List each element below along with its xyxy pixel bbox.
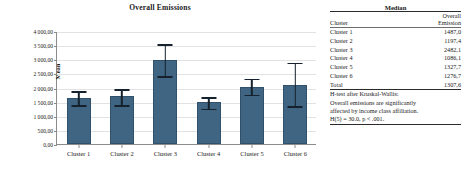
x-axis-tick-mark (165, 144, 166, 148)
cell-cluster: Cluster 3 (330, 46, 395, 55)
y-axis-tick-label: 1 000,00 (33, 114, 53, 120)
bar-chart-panel: Overall Emissions Mean 0,00500,001 000,0… (0, 0, 320, 176)
figure-container: Overall Emissions Mean 0,00500,001 000,0… (0, 0, 465, 176)
error-bar-cap-bottom (71, 105, 86, 106)
cell-overall-emission: 1307,6 (395, 81, 461, 90)
table-body: Cluster 11487,0Cluster 21197,4Cluster 32… (330, 28, 461, 90)
y-axis-tick-label: 500,00 (38, 128, 53, 134)
error-bar-cap-top (201, 97, 216, 98)
table-row: Cluster 61276,7 (330, 72, 461, 81)
header-overall-emission: Overall Emission (395, 12, 461, 28)
error-bar-cap-bottom (288, 106, 303, 107)
error-bar-cap-bottom (114, 105, 129, 106)
y-axis-tick-label: 4 000,00 (33, 29, 53, 35)
x-axis-tick-mark (121, 144, 122, 148)
table-row: Total1307,6 (330, 81, 461, 90)
table-note-row: H-test after Kruskal-Wallis:Overall emis… (330, 90, 461, 124)
y-axis-tick-mark (54, 145, 57, 146)
table-bottom-rule-row (330, 124, 461, 125)
y-axis-tick-label: 3 000,00 (33, 57, 53, 63)
cell-cluster: Total (330, 81, 395, 90)
error-bar-stem (251, 79, 252, 97)
error-bar-stem (165, 44, 166, 78)
error-bar-stem (121, 89, 122, 106)
x-axis-tick-label: Cluster 4 (197, 150, 220, 157)
error-bar-cap-bottom (244, 95, 259, 96)
cell-cluster: Cluster 6 (330, 72, 395, 81)
table-note-line: H(5) = 30.0, p < .001. (330, 115, 461, 123)
cell-overall-emission: 1086,1 (395, 55, 461, 64)
error-bar-cap-top (71, 91, 86, 92)
error-bar (288, 63, 303, 108)
cell-overall-emission: 1327,7 (395, 63, 461, 72)
table-header-row: Cluster Overall Emission (330, 12, 461, 28)
table-row: Cluster 41086,1 (330, 55, 461, 64)
cell-overall-emission: 2482,1 (395, 46, 461, 55)
y-axis-tick-label: 2 500,00 (33, 71, 53, 77)
x-axis-tick-mark (295, 144, 296, 148)
error-bar-cap-top (244, 79, 259, 80)
y-axis-tick-label: 1 500,00 (33, 100, 53, 106)
table-note-line: H-test after Kruskal-Wallis: (330, 90, 461, 98)
error-bar (114, 89, 129, 106)
bar-group: Cluster 2 (100, 32, 143, 144)
cell-cluster: Cluster 5 (330, 63, 395, 72)
table-row: Cluster 21197,4 (330, 37, 461, 46)
x-axis-tick-label: Cluster 2 (110, 150, 133, 157)
x-axis-tick-mark (78, 144, 79, 148)
error-bar-cap-bottom (158, 76, 173, 77)
error-bar-stem (295, 63, 296, 108)
bar-group: Cluster 6 (274, 32, 317, 144)
x-axis-tick-label: Cluster 5 (240, 150, 263, 157)
x-axis-tick-mark (208, 144, 209, 148)
table-row: Cluster 51327,7 (330, 63, 461, 72)
error-bar-cap-top (114, 89, 129, 90)
table-caption-row: Median (330, 4, 461, 12)
median-table: Median Cluster Overall Emission Cluster … (330, 4, 461, 125)
table-row: Cluster 11487,0 (330, 28, 461, 37)
error-bar-cap-bottom (201, 109, 216, 110)
x-axis-tick-label: Cluster 1 (67, 150, 90, 157)
table-note-line: Overall emissions are significantly (330, 99, 461, 107)
cell-cluster: Cluster 1 (330, 28, 395, 37)
table-row: Cluster 32482,1 (330, 46, 461, 55)
y-axis-tick-label: 3 500,00 (33, 43, 53, 49)
error-bar-cap-top (288, 63, 303, 64)
error-bar (244, 79, 259, 97)
error-bar (71, 91, 86, 106)
cell-overall-emission: 1487,0 (395, 28, 461, 37)
cell-cluster: Cluster 2 (330, 37, 395, 46)
cell-overall-emission: 1276,7 (395, 72, 461, 81)
bar-group: Cluster 1 (57, 32, 100, 144)
bar-group: Cluster 3 (144, 32, 187, 144)
table-note: H-test after Kruskal-Wallis:Overall emis… (330, 90, 461, 124)
error-bar (158, 44, 173, 78)
x-axis-tick-label: Cluster 3 (154, 150, 177, 157)
header-cluster: Cluster (330, 12, 395, 28)
y-axis-tick-label: 0,00 (43, 142, 53, 148)
bar-series: Cluster 1Cluster 2Cluster 3Cluster 4Clus… (57, 32, 316, 144)
plot-area: Mean 0,00500,001 000,001 500,002 000,002… (56, 32, 316, 145)
table-note-line: affected by income class affiliation. (330, 107, 461, 115)
error-bar (201, 97, 216, 110)
table-bottom-rule (330, 124, 461, 125)
cell-cluster: Cluster 4 (330, 55, 395, 64)
header-overall-line2: Emission (395, 20, 461, 27)
median-table-panel: Median Cluster Overall Emission Cluster … (330, 4, 461, 125)
cell-overall-emission: 1197,4 (395, 37, 461, 46)
x-axis-tick-label: Cluster 6 (284, 150, 307, 157)
error-bar-cap-top (158, 44, 173, 45)
bar-group: Cluster 5 (230, 32, 273, 144)
x-axis-tick-mark (251, 144, 252, 148)
chart-title: Overall Emissions (0, 3, 320, 12)
table-caption: Median (330, 4, 461, 12)
y-axis-tick-label: 2 000,00 (33, 86, 53, 92)
bar-group: Cluster 4 (187, 32, 230, 144)
